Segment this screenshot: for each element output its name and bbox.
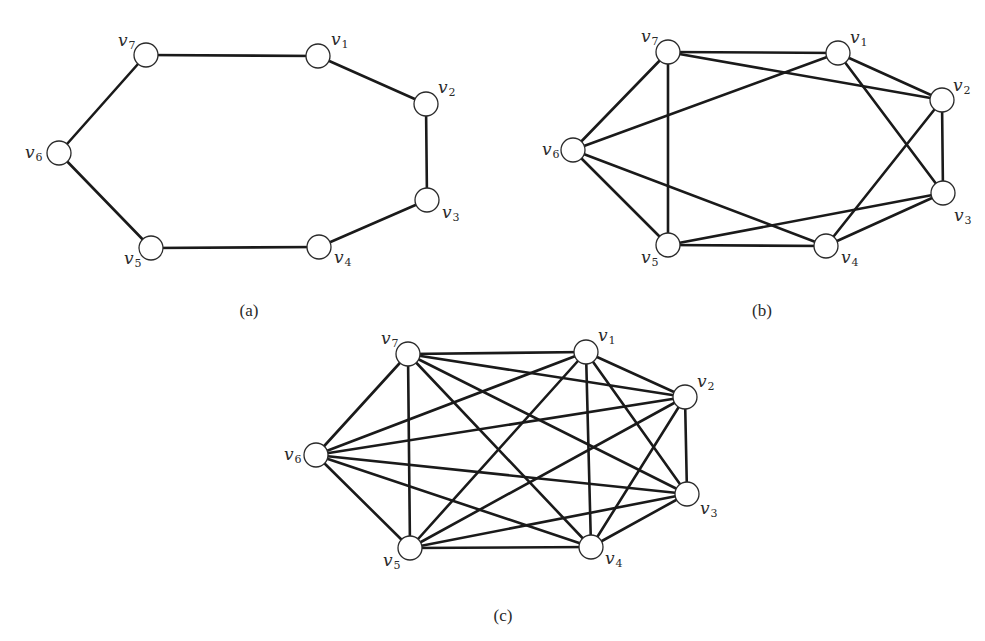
vertex-label-v2: v2 [953, 75, 971, 97]
edge-v1-v7 [408, 352, 586, 354]
edge-v3-v4 [319, 200, 427, 247]
edge-v1-v2 [318, 56, 426, 104]
vertex-v1 [306, 44, 330, 68]
edge-v1-v3 [838, 53, 943, 193]
vertex-label-v6: v6 [284, 444, 302, 466]
vertex-label-v5: v5 [383, 550, 401, 572]
vertex-label-v7: v7 [118, 30, 136, 52]
vertex-v4 [579, 535, 603, 559]
panel-caption: (a) [240, 301, 259, 320]
vertex-label-group: v1v2v3v4v5v6v7 [542, 26, 972, 269]
vertex-group [304, 340, 699, 560]
vertex-v1 [826, 41, 850, 65]
vertex-label-v2: v2 [438, 77, 456, 99]
vertex-v3 [931, 181, 955, 205]
edge-v6-v1 [573, 53, 838, 150]
edge-v4-v5 [668, 245, 826, 246]
vertex-label-v3: v3 [700, 498, 718, 520]
vertex-label-v4: v4 [841, 247, 859, 269]
edge-v4-v5 [410, 547, 591, 548]
edge-v5-v6 [59, 153, 151, 248]
vertex-v2 [930, 88, 954, 112]
vertex-label-v1: v1 [850, 27, 868, 49]
edge-v4-v6 [573, 150, 826, 246]
vertex-label-v4: v4 [334, 247, 352, 269]
vertex-v6 [561, 138, 585, 162]
vertex-v6 [47, 141, 71, 165]
vertex-group [561, 40, 955, 258]
edge-v2-v3 [685, 397, 687, 494]
vertex-label-v4: v4 [605, 548, 623, 570]
vertex-v3 [675, 482, 699, 506]
edge-v6-v7 [573, 52, 668, 150]
vertex-label-v6: v6 [25, 142, 43, 164]
edge-v7-v1 [668, 52, 838, 53]
vertex-label-v7: v7 [381, 328, 399, 350]
vertex-label-v1: v1 [331, 29, 349, 51]
vertex-v5 [398, 536, 422, 560]
edge-v7-v2 [668, 52, 942, 100]
edge-group [573, 52, 943, 246]
vertex-v1 [574, 340, 598, 364]
vertex-v3 [415, 188, 439, 212]
edge-v2-v3 [426, 104, 427, 200]
edge-v5-v6 [573, 150, 668, 245]
vertex-v6 [304, 443, 328, 467]
edge-group [59, 55, 427, 248]
panel-c-complete-graph: v1v2v3v4v5v6v7 (c) [284, 325, 718, 625]
edge-v1-v6 [316, 352, 586, 455]
vertex-v2 [414, 92, 438, 116]
edge-v6-v7 [316, 354, 408, 455]
vertex-v7 [656, 40, 680, 64]
edge-v3-v4 [591, 494, 687, 547]
edge-v5-v7 [408, 354, 410, 548]
edge-v2-v3 [942, 100, 943, 193]
edge-v7-v1 [146, 55, 318, 56]
graph-figure: v1v2v3v4v5v6v7 (a) v1v2v3v4v5v6v7 (b) v1… [0, 0, 985, 641]
panel-a-cycle-graph: v1v2v3v4v5v6v7 (a) [25, 29, 460, 320]
panel-caption: (b) [752, 301, 772, 320]
vertex-label-v1: v1 [598, 325, 616, 347]
vertex-v4 [814, 234, 838, 258]
vertex-label-v2: v2 [697, 371, 715, 393]
edge-v5-v6 [316, 455, 410, 548]
edge-v2-v4 [826, 100, 942, 246]
vertex-label-v3: v3 [954, 205, 972, 227]
vertex-v4 [307, 235, 331, 259]
edge-v3-v4 [826, 193, 943, 246]
edge-v4-v5 [151, 247, 319, 248]
edge-v1-v2 [838, 53, 942, 100]
vertex-v2 [673, 385, 697, 409]
panel-caption: (c) [494, 606, 513, 625]
vertex-v5 [139, 236, 163, 260]
panel-b-four-regular-graph: v1v2v3v4v5v6v7 (b) [542, 26, 972, 320]
vertex-v7 [134, 43, 158, 67]
edge-group [316, 352, 687, 548]
vertex-v7 [396, 342, 420, 366]
edge-v6-v7 [59, 55, 146, 153]
vertex-group [47, 43, 439, 260]
vertex-label-v3: v3 [442, 202, 460, 224]
vertex-label-group: v1v2v3v4v5v6v7 [25, 29, 460, 270]
vertex-label-v6: v6 [542, 139, 560, 161]
vertex-v5 [656, 233, 680, 257]
vertex-label-v7: v7 [641, 26, 659, 48]
vertex-label-v5: v5 [641, 247, 659, 269]
